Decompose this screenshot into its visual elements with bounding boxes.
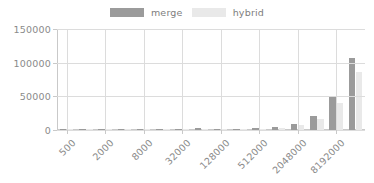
legend-label-hybrid: hybrid	[233, 7, 264, 18]
gridline-vertical	[144, 29, 145, 130]
gridline-vertical	[298, 29, 299, 130]
plot-area: 0500001000001500005002000800032000128000…	[57, 29, 365, 130]
x-axis-label: 8000	[129, 137, 154, 162]
x-tick-mark	[67, 130, 68, 134]
legend-item-hybrid[interactable]: hybrid	[192, 7, 264, 18]
x-tick-mark	[298, 130, 299, 134]
bar-group	[153, 29, 172, 130]
bar-hybrid[interactable]	[317, 119, 324, 130]
legend-item-merge[interactable]: merge	[110, 7, 183, 18]
bar-group	[307, 29, 326, 130]
x-axis-label: 2048000	[270, 137, 309, 176]
gridline-vertical	[259, 29, 260, 130]
gridline-vertical	[67, 29, 68, 130]
bar-group	[115, 29, 134, 130]
y-axis-label: 50000	[20, 91, 57, 102]
y-axis-label: 0	[45, 125, 57, 136]
x-axis-label: 500	[56, 137, 77, 158]
legend-swatch-merge	[110, 8, 144, 17]
legend-swatch-hybrid	[192, 8, 226, 17]
gridline-vertical	[336, 29, 337, 130]
bar-chart: mergehybrid 0500001000001500005002000800…	[0, 0, 374, 183]
x-tick-mark	[182, 130, 183, 134]
x-axis-label: 8192000	[308, 137, 347, 176]
bar-merge[interactable]	[329, 96, 336, 130]
bar-merge[interactable]	[310, 116, 317, 130]
gridline-horizontal	[57, 130, 365, 131]
bar-group	[230, 29, 249, 130]
gridline-vertical	[105, 29, 106, 130]
y-axis-label: 100000	[14, 57, 57, 68]
bar-group	[192, 29, 211, 130]
gridline-horizontal	[57, 29, 365, 30]
bar-group	[346, 29, 365, 130]
bar-group	[76, 29, 95, 130]
x-tick-mark	[221, 130, 222, 134]
gridline-horizontal	[57, 96, 365, 97]
x-axis-label: 2000	[90, 137, 115, 162]
gridline-vertical	[221, 29, 222, 130]
bar-hybrid[interactable]	[336, 103, 343, 130]
chart-legend: mergehybrid	[0, 4, 374, 20]
x-tick-mark	[336, 130, 337, 134]
bar-hybrid[interactable]	[356, 72, 363, 130]
bars-layer	[57, 29, 365, 130]
gridline-vertical	[182, 29, 183, 130]
x-tick-mark	[105, 130, 106, 134]
bar-merge[interactable]	[349, 58, 356, 130]
gridline-horizontal	[57, 63, 365, 64]
y-axis-label: 150000	[14, 24, 57, 35]
x-axis-label: 32000	[163, 137, 193, 167]
x-tick-mark	[144, 130, 145, 134]
x-axis-label: 512000	[236, 137, 270, 171]
bar-group	[269, 29, 288, 130]
x-tick-mark	[259, 130, 260, 134]
x-axis-label: 128000	[197, 137, 231, 171]
legend-label-merge: merge	[151, 7, 183, 18]
